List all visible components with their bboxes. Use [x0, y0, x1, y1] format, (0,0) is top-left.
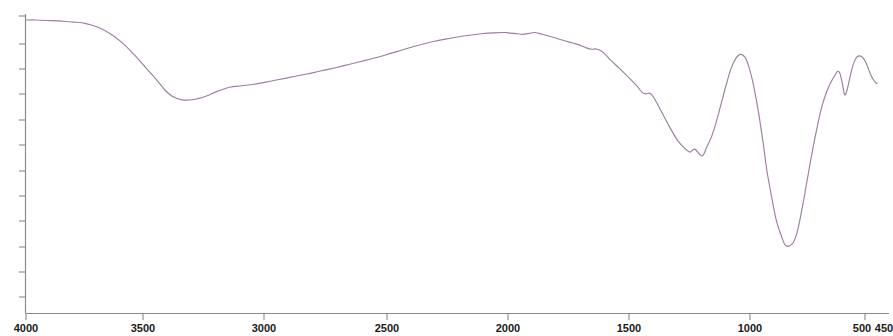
x-tick-label-2000: 2000: [496, 322, 520, 334]
spectrum-trace-ir-transmittance: [26, 20, 877, 246]
ir-spectrum-figure: 4000 3500 3000 2500 2000 1500 1000 500 4…: [0, 0, 893, 336]
x-axis-ticks: [26, 314, 865, 321]
x-axis-group: 4000 3500 3000 2500 2000 1500 1000 500 4…: [14, 314, 893, 335]
x-tick-label-450: 450: [875, 322, 893, 334]
x-tick-label-500: 500: [853, 322, 871, 334]
spectrum-plot-area: 4000 3500 3000 2500 2000 1500 1000 500 4…: [0, 0, 893, 336]
x-tick-label-3000: 3000: [252, 322, 276, 334]
x-tick-label-3500: 3500: [131, 322, 155, 334]
x-tick-label-1000: 1000: [738, 322, 762, 334]
x-axis-tick-labels: 4000 3500 3000 2500 2000 1500 1000 500 4…: [14, 322, 893, 334]
x-tick-label-1500: 1500: [617, 322, 641, 334]
y-axis-group: [19, 14, 26, 313]
x-tick-label-4000: 4000: [14, 322, 38, 334]
y-axis-ticks: [19, 16, 26, 297]
x-tick-label-2500: 2500: [375, 322, 399, 334]
